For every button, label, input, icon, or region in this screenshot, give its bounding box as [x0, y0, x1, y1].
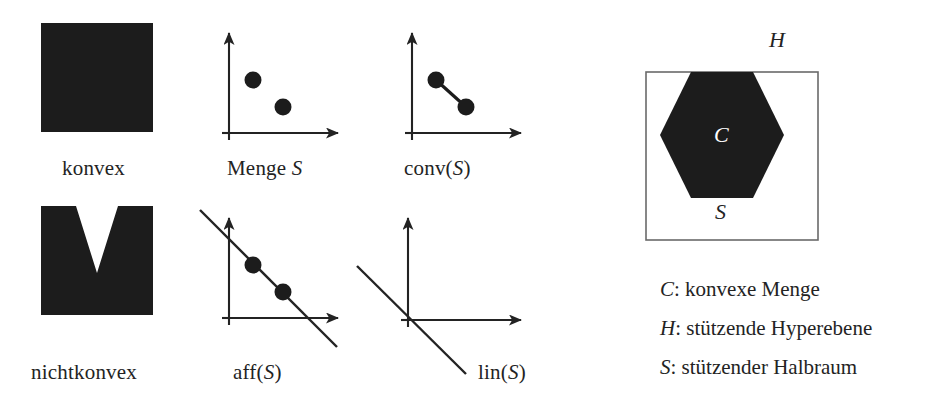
label-halfspace-s: S: [715, 199, 726, 225]
caption-lin-s: lin(S): [478, 360, 526, 385]
caption-konvex: konvex: [62, 156, 125, 181]
caption-nichtkonvex: nichtkonvex: [31, 360, 137, 385]
legend-item-c-text: konvexe Menge: [685, 277, 820, 301]
legend-item-s-sep: :: [671, 355, 682, 379]
panel-conv-s-axes: [405, 33, 521, 140]
caption-conv-s-symbol: S: [453, 156, 464, 180]
caption-conv-s: conv(S): [404, 156, 471, 181]
label-convex-set-c: C: [714, 122, 729, 148]
legend-item-h-sep: :: [675, 316, 686, 340]
caption-lin-s-suffix: ): [519, 360, 526, 384]
caption-lin-s-symbol: S: [508, 360, 519, 384]
caption-menge-s-symbol: S: [292, 156, 303, 180]
legend-item-s: S: stützender Halbraum: [660, 355, 857, 380]
caption-aff-s-symbol: S: [264, 360, 275, 384]
caption-aff-s-prefix: aff(: [233, 360, 264, 384]
panel-menge-s-axes: [222, 33, 338, 140]
panel-aff-s-hull: [200, 210, 337, 347]
legend-item-h-text: stützende Hyperebene: [686, 316, 872, 340]
legend-item-c-key: C: [660, 277, 674, 301]
caption-aff-s: aff(S): [233, 360, 282, 385]
legend-item-s-key: S: [660, 355, 671, 379]
legend-item-h: H: stützende Hyperebene: [660, 316, 872, 341]
caption-lin-s-prefix: lin(: [478, 360, 508, 384]
caption-conv-s-suffix: ): [464, 156, 471, 180]
legend-item-c-sep: :: [674, 277, 685, 301]
figure-root: konvex Menge S conv(S) nichtkonvex aff(S…: [0, 0, 948, 420]
legend-item-s-text: stützender Halbraum: [682, 355, 858, 379]
caption-menge-s-prefix: Menge: [227, 156, 292, 180]
caption-menge-s: Menge S: [227, 156, 302, 181]
panel-supporting-halfspace: [646, 72, 818, 240]
caption-aff-s-suffix: ): [274, 360, 281, 384]
caption-conv-s-prefix: conv(: [404, 156, 453, 180]
panel-menge-s-points: [245, 72, 292, 116]
panel-konvex-shape: [41, 23, 153, 132]
label-hyperplane-h: H: [769, 27, 785, 53]
legend-item-h-key: H: [660, 316, 675, 340]
panel-lin-s-axes: [401, 218, 521, 327]
legend-item-c: C: konvexe Menge: [660, 277, 820, 302]
panel-conv-s-hull: [428, 72, 475, 116]
panel-nichtkonvex-shape: [41, 206, 153, 315]
panel-aff-s-axes: [222, 218, 338, 325]
